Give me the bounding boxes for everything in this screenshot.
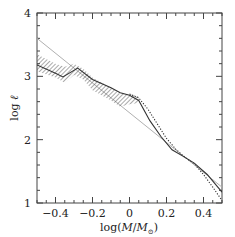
solid-curve <box>37 65 222 192</box>
x-tick-label: −0.4 <box>42 207 69 220</box>
series-layer <box>37 38 222 200</box>
plot-frame <box>37 13 222 203</box>
y-tick-label: 2 <box>24 134 31 147</box>
x-tick-label: −0.2 <box>79 207 106 220</box>
x-tick-label: 0.4 <box>195 207 213 220</box>
reference-line <box>37 38 222 187</box>
hatched-band <box>37 54 139 107</box>
dotted-curve <box>130 94 223 200</box>
chart-svg: −0.4−0.200.20.41234 log(M/M⊙) log ℓ <box>0 0 235 237</box>
axis-ticks <box>37 13 222 203</box>
y-axis-label: log ℓ <box>8 95 21 121</box>
y-tick-label: 3 <box>24 70 31 83</box>
y-tick-label: 1 <box>24 197 31 210</box>
x-axis-label: log(M/M⊙) <box>100 221 158 236</box>
tick-labels: −0.4−0.200.20.41234 <box>24 7 212 220</box>
y-tick-label: 4 <box>24 7 31 20</box>
x-tick-label: 0 <box>126 207 133 220</box>
x-tick-label: 0.2 <box>158 207 176 220</box>
